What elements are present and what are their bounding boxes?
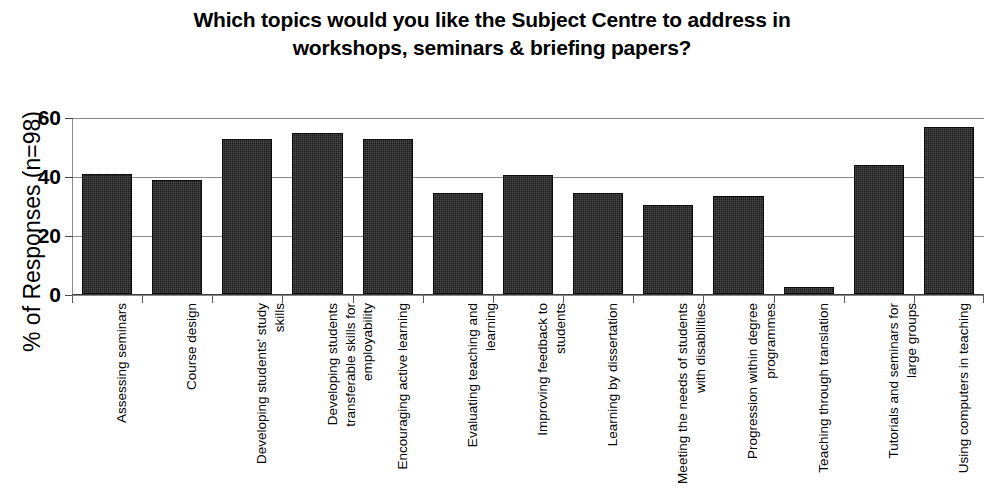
chart-title: Which topics would you like the Subject … xyxy=(92,6,892,61)
x-tick xyxy=(423,294,424,303)
x-axis-label: Tutorials and seminars for large groups xyxy=(885,303,920,489)
bar xyxy=(433,193,483,294)
x-tick xyxy=(282,294,283,303)
bar xyxy=(854,165,904,294)
x-axis-label: Course design xyxy=(183,303,201,489)
bar xyxy=(503,175,553,294)
x-tick xyxy=(142,294,143,303)
x-axis-label: Teaching through translation xyxy=(815,303,833,489)
x-axis-label: Encouraging active learning xyxy=(394,303,412,489)
bars-group xyxy=(72,118,984,294)
x-tick xyxy=(493,294,494,303)
x-tick xyxy=(563,294,564,303)
bar xyxy=(713,196,763,294)
chart-title-line-1: Which topics would you like the Subject … xyxy=(92,6,892,34)
bar xyxy=(573,193,623,294)
y-tick-label-20: 20 xyxy=(38,224,61,248)
x-tick xyxy=(914,294,915,303)
x-axis-label: Improving feedback to students xyxy=(534,303,569,489)
bar xyxy=(82,174,132,294)
x-axis-label: Learning by dissertation xyxy=(604,303,622,489)
x-axis-label: Developing students transferable skills … xyxy=(324,303,377,489)
x-axis-label: Evaluating teaching and learning xyxy=(464,303,499,489)
y-tick-label-60: 60 xyxy=(38,106,61,130)
x-tick xyxy=(353,294,354,303)
bar xyxy=(292,133,342,294)
y-tick-label-40: 40 xyxy=(38,165,61,189)
y-tick-label-0: 0 xyxy=(49,283,61,307)
x-tick xyxy=(72,294,73,303)
x-axis-label: Progression within degree programmes xyxy=(744,303,779,489)
bar-chart: Which topics would you like the Subject … xyxy=(0,0,984,493)
bar xyxy=(363,139,413,294)
x-axis-label: Assessing seminars xyxy=(113,303,131,489)
bar xyxy=(152,180,202,294)
x-tick xyxy=(212,294,213,303)
x-axis-label: Meeting the needs of students with disab… xyxy=(674,303,709,489)
bar xyxy=(784,287,834,294)
bar xyxy=(924,127,974,294)
x-tick xyxy=(774,294,775,303)
bar xyxy=(222,139,272,294)
chart-title-line-2: workshops, seminars & briefing papers? xyxy=(92,34,892,62)
x-axis-label: Using computers in teaching xyxy=(955,303,973,489)
x-tick xyxy=(844,294,845,303)
x-tick xyxy=(703,294,704,303)
x-tick xyxy=(633,294,634,303)
x-axis-labels: Assessing seminarsCourse designDevelopin… xyxy=(72,303,984,493)
bar xyxy=(643,205,693,294)
x-axis-label: Developing students' study skills xyxy=(253,303,288,489)
